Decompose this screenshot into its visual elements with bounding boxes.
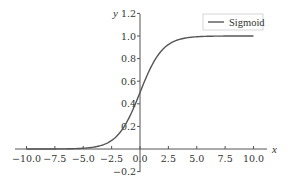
x-tick-label: 2.5 [161, 153, 176, 164]
x-tick-label: −10.0 [12, 153, 41, 164]
y-axis: −0.20.20.40.60.81.01.2 y [112, 7, 140, 177]
x-tick-label: 7.5 [218, 153, 233, 164]
x-tick-label: 5.0 [189, 153, 204, 164]
y-tick-label: 1.2 [121, 8, 136, 19]
x-tick-label: −2.5 [100, 153, 123, 164]
x-tick-label: −5.0 [72, 153, 95, 164]
y-tick-label: 0.2 [121, 121, 136, 132]
sigmoid-chart: −10.0−7.5−5.0−2.50.02.55.07.510.0 x −0.2… [0, 0, 289, 192]
y-axis-label: y [112, 7, 118, 19]
x-axis: −10.0−7.5−5.0−2.50.02.55.07.510.0 x [12, 143, 277, 164]
y-tick-label: −0.2 [113, 166, 136, 177]
x-axis-label: x [271, 143, 277, 155]
y-tick-label: 1.0 [121, 31, 136, 42]
x-tick-label: 10.0 [243, 153, 264, 164]
legend: Sigmoid [203, 14, 265, 30]
legend-label: Sigmoid [229, 17, 265, 28]
y-tick-label: 0.6 [121, 76, 136, 87]
y-tick-label: 0.8 [121, 53, 136, 64]
x-tick-label: −7.5 [43, 153, 66, 164]
